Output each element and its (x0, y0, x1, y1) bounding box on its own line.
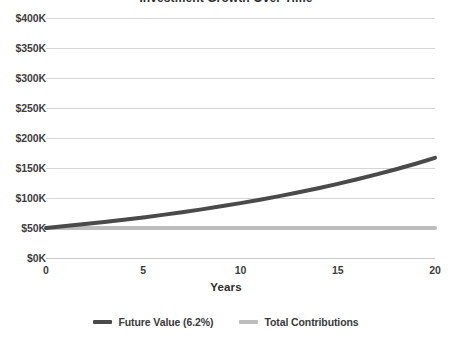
x-axis-title: Years (0, 281, 452, 293)
x-axis-tick-label: 15 (332, 264, 344, 276)
legend-label: Total Contributions (264, 316, 358, 328)
legend-swatch-icon (93, 320, 112, 324)
legend-swatch-icon (239, 320, 258, 324)
legend-item[interactable]: Future Value (6.2%) (93, 316, 213, 328)
x-axis-tick-label: 20 (429, 264, 441, 276)
legend-item[interactable]: Total Contributions (239, 316, 358, 328)
plot-area: $0K$50K$100K$150K$200K$250K$300K$350K$40… (0, 0, 452, 300)
chart-legend: Future Value (6.2%)Total Contributions (0, 316, 452, 328)
series-layer (0, 0, 452, 300)
legend-label: Future Value (6.2%) (118, 316, 213, 328)
investment-growth-chart: Investment Growth Over Time $0K$50K$100K… (0, 0, 452, 345)
line-future-value (46, 158, 435, 228)
x-axis-tick-label: 5 (140, 264, 146, 276)
x-axis-tick-label: 10 (235, 264, 247, 276)
x-axis-tick-label: 0 (43, 264, 49, 276)
